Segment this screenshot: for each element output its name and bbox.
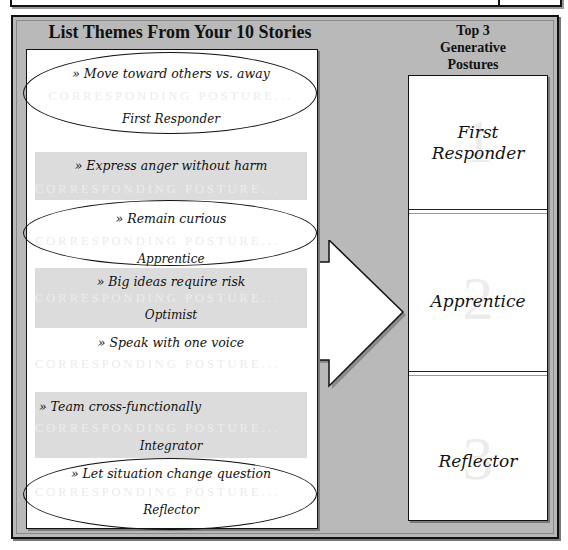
posture-name: Reflector [409, 451, 547, 472]
posture-name-line-1: First [409, 122, 547, 143]
theme-item-5: » Speak with one voice CORRESPONDING POS… [35, 333, 307, 383]
posture-placeholder: CORRESPONDING POSTURE... [35, 357, 307, 372]
theme-text: » Team cross-functionally [39, 399, 307, 414]
list-themes-heading: List Themes From Your 10 Stories [35, 22, 325, 43]
previous-section-frame [10, 0, 562, 7]
worksheet-panel: List Themes From Your 10 Stories Top 3 G… [11, 15, 559, 539]
circled-theme-3 [23, 200, 317, 266]
theme-text: » Speak with one voice [35, 335, 307, 350]
theme-text: » Big ideas require risk [35, 274, 307, 289]
posture-placeholder: CORRESPONDING POSTURE... [35, 182, 307, 197]
posture-name: First Responder [409, 122, 547, 164]
circled-theme-1 [23, 52, 317, 134]
top3-heading: Top 3 Generative Postures [408, 22, 538, 73]
arrow-right-icon [311, 240, 407, 395]
theme-item-2: » Express anger without harm CORRESPONDI… [35, 152, 307, 200]
top3-slot-2: 2 Apprentice [409, 213, 547, 371]
top3-postures-box: 1 First Responder 2 Apprentice 3 Reflect… [408, 75, 548, 521]
theme-text: » Express anger without harm [35, 158, 307, 173]
theme-item-6: » Team cross-functionally CORRESPONDING … [35, 392, 307, 458]
circled-theme-7 [23, 458, 317, 530]
theme-item-4: » Big ideas require risk CORRESPONDING P… [35, 268, 307, 328]
posture-text: Optimist [35, 308, 307, 322]
posture-placeholder: CORRESPONDING POSTURE... [35, 421, 307, 436]
posture-placeholder: CORRESPONDING POSTURE... [35, 291, 307, 306]
frame-divider [498, 0, 500, 5]
top3-heading-line-3: Postures [408, 56, 538, 73]
top3-heading-line-1: Top 3 [408, 22, 538, 39]
themes-list-box: » Move toward others vs. away CORRESPOND… [26, 49, 318, 529]
top3-heading-line-2: Generative [408, 39, 538, 56]
top3-slot-3: 3 Reflector [409, 375, 547, 520]
posture-name-line-2: Responder [409, 143, 547, 164]
posture-name: Apprentice [409, 291, 547, 312]
top3-slot-1: 1 First Responder [409, 76, 547, 209]
posture-text: Integrator [35, 439, 307, 453]
